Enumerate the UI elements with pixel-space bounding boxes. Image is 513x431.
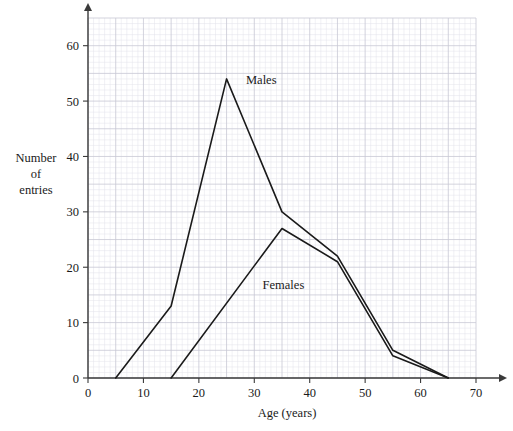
y-axis-title-line-1: Number	[16, 151, 58, 165]
x-tick-label: 50	[359, 386, 372, 400]
y-tick-label: 30	[67, 205, 80, 219]
series-label-females: Females	[263, 278, 305, 292]
x-tick-label: 60	[414, 386, 427, 400]
x-tick-label: 20	[193, 386, 206, 400]
x-tick-label: 70	[470, 386, 483, 400]
y-axis-title-line-2: of	[31, 167, 42, 181]
y-axis-title-line-3: entries	[19, 183, 52, 197]
y-tick-label: 0	[73, 372, 79, 386]
x-tick-label: 30	[248, 386, 261, 400]
x-tick-label: 0	[85, 386, 91, 400]
y-tick-label: 10	[67, 316, 80, 330]
y-tick-label: 60	[67, 39, 80, 53]
y-tick-label: 20	[67, 261, 80, 275]
x-axis-title: Age (years)	[258, 406, 317, 420]
y-tick-label: 40	[67, 150, 80, 164]
x-tick-label: 40	[303, 386, 316, 400]
series-label-males: Males	[246, 73, 277, 87]
y-tick-label: 50	[67, 95, 80, 109]
x-tick-label: 10	[137, 386, 150, 400]
frequency-polygon-chart: 010203040506070 0102030405060 MalesFemal…	[0, 0, 513, 431]
